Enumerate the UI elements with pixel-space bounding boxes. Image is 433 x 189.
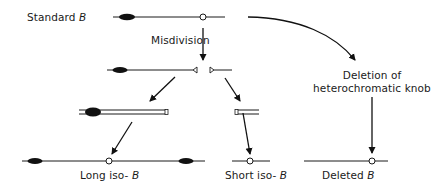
label-long-iso-prefix: Long iso- — [80, 169, 132, 181]
label-standard-b: Standard B — [27, 11, 86, 23]
short-arm-telocentric — [210, 67, 232, 73]
heterochromatic-knob — [119, 14, 135, 21]
label-short-iso-prefix: Short iso- — [225, 169, 280, 181]
arrow-to-long-iso — [112, 122, 132, 154]
arrow-to-short-iso — [243, 113, 250, 154]
label-deletion-line2: heterochromatic knob — [313, 82, 431, 94]
label-misdivision: Misdivision — [151, 34, 210, 46]
label-deletion-line1: Deletion of — [343, 69, 402, 81]
long-iso-b-chromosome — [22, 158, 205, 164]
label-standard-italic: B — [79, 11, 86, 23]
label-standard-prefix: Standard — [27, 11, 79, 23]
deletion-arrow — [248, 17, 355, 60]
deleted-b-chromosome — [304, 158, 388, 164]
label-deleted-b: Deleted B — [322, 169, 375, 181]
long-arm-doubled — [79, 108, 168, 117]
short-iso-b-chromosome — [232, 158, 270, 164]
standard-b-chromosome — [113, 14, 225, 21]
arrow-to-short-doubled — [225, 78, 240, 101]
label-long-iso-italic: B — [132, 169, 139, 181]
label-short-iso-b: Short iso- B — [225, 169, 287, 181]
label-long-iso-b: Long iso- B — [80, 169, 139, 181]
diagram-graphic — [0, 0, 433, 189]
label-deleted-prefix: Deleted — [322, 169, 367, 181]
label-deleted-italic: B — [367, 169, 374, 181]
short-arm-doubled — [235, 110, 259, 115]
arrow-to-long-doubled — [150, 77, 175, 101]
label-short-iso-italic: B — [280, 169, 287, 181]
diagram-canvas: Standard B Misdivision Deletion of heter… — [0, 0, 433, 189]
long-arm-telocentric — [107, 67, 197, 73]
centromere — [200, 14, 206, 20]
